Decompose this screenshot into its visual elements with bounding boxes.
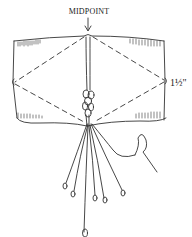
fabric-illustration [0, 0, 192, 237]
fabric-top-edge [14, 35, 164, 42]
hanging-threads [63, 124, 157, 237]
arrow-down-icon [85, 18, 91, 31]
center-cord [86, 37, 87, 90]
selvage-hatch-top-left [18, 40, 40, 46]
knot-cluster [83, 90, 95, 126]
fabric-right-edge [164, 41, 165, 120]
selvage-hatch-bottom-right [136, 112, 160, 118]
selvage-hatch-bottom-left [18, 113, 42, 118]
